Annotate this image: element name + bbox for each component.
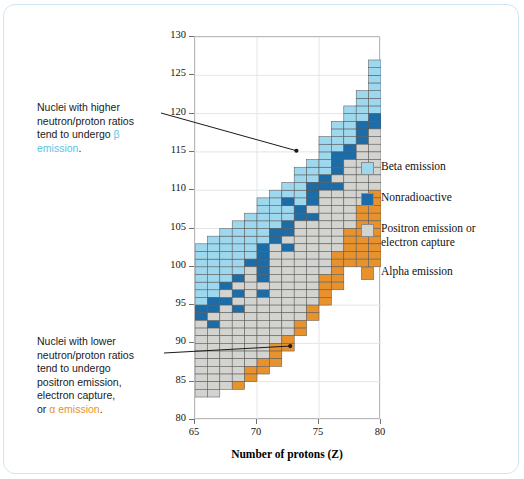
nuclide-cell [269,305,281,313]
chart-legend: Beta emissionNonradioactivePositron emis… [361,160,511,296]
nuclide-cell [220,229,232,237]
nuclide-cell [220,343,232,351]
nuclide-cell [369,83,381,91]
legend-swatch-stable [361,193,374,206]
nuclide-cell [257,343,269,351]
nuclide-cell [369,137,381,145]
nuclide-cell [294,290,306,298]
nuclide-cell [207,343,219,351]
annotation-positron-alpha: Nuclei with lower neutron/proton ratios … [37,335,163,417]
nuclide-cell [369,114,381,122]
nuclide-cell [319,274,331,282]
y-tick-mark [189,381,194,382]
legend-swatch-positron [361,224,374,237]
nuclide-cell [195,343,207,351]
nuclide-cell [245,374,257,382]
nuclide-cell [220,320,232,328]
nuclide-cell [294,297,306,305]
nuclide-cell [257,351,269,359]
nuclide-cell [245,359,257,367]
nuclide-cell [331,267,343,275]
nuclide-cell [232,374,244,382]
nuclide-cell [207,374,219,382]
nuclide-cell [319,290,331,298]
nuclide-cell [195,389,207,397]
chart-grid-and-cells [195,37,381,420]
nuclide-cell [344,160,356,168]
nuclide-cell [245,213,257,221]
nuclide-cell [356,106,368,114]
anno-top-line3: tend to undergo [37,128,113,140]
annotation-beta-emission: Nuclei with higher neutron/proton ratios… [37,101,159,155]
nuclide-cell [245,343,257,351]
nuclide-cell [356,91,368,99]
nuclide-cell [319,175,331,183]
nuclide-cell [307,198,319,206]
nuclide-cell [207,274,219,282]
nuclide-cell [282,320,294,328]
nuclide-cell [344,213,356,221]
x-tick-label: 65 [174,426,214,437]
nuclide-cell [220,382,232,390]
nuclide-cell [369,98,381,106]
nuclide-cell [307,282,319,290]
nuclide-cell [207,320,219,328]
nuclide-cell [232,313,244,321]
nuclide-cell [245,267,257,275]
nuclide-cell [220,351,232,359]
x-tick-mark [194,419,195,424]
nuclide-cell [232,229,244,237]
nuclide-cell [282,190,294,198]
nuclide-cell [356,137,368,145]
nuclide-cell [207,290,219,298]
legend-label-stable: Nonradioactive [381,191,452,205]
nuclide-cell [257,198,269,206]
nuclide-cell [369,68,381,76]
nuclide-cell [207,297,219,305]
nuclide-cell [207,251,219,259]
nuclide-cell [269,221,281,229]
nuclide-cell [307,213,319,221]
nuclide-cell [331,121,343,129]
nuclide-cell [245,274,257,282]
nuclide-cell [232,251,244,259]
nuclide-cell [307,190,319,198]
y-tick-mark [189,266,194,267]
nuclide-cell [307,274,319,282]
nuclide-cell [245,366,257,374]
nuclide-cell [269,251,281,259]
nuclide-cell [245,251,257,259]
y-tick-label: 100 [150,259,186,270]
legend-swatch-beta [361,162,374,175]
nuclide-cell [269,267,281,275]
nuclide-cell [269,236,281,244]
nuclide-cell [307,297,319,305]
nuclide-cell [282,336,294,344]
nuclide-cell [207,267,219,275]
nuclide-cell [307,251,319,259]
nuclide-cell [331,259,343,267]
nuclide-cell [319,236,331,244]
nuclide-cell [331,236,343,244]
nuclide-cell [369,144,381,152]
nuclide-cell [220,313,232,321]
x-tick-mark [256,419,257,424]
nuclide-cell [195,244,207,252]
nuclide-cell [220,336,232,344]
nuclide-cell [319,244,331,252]
nuclide-cell [307,244,319,252]
nuclide-cell [232,351,244,359]
nuclide-cell [257,213,269,221]
anno-bottom-line6: or [37,403,49,415]
nuclide-cell [232,244,244,252]
nuclide-cell [369,75,381,83]
nuclide-cell [307,160,319,168]
nuclide-cell [369,106,381,114]
x-axis-label: Number of protons (Z) [182,448,392,460]
nuclide-cell [331,190,343,198]
nuclide-cell [232,221,244,229]
nuclide-cell [232,305,244,313]
nuclide-cell [331,144,343,152]
nuclide-cell [344,106,356,114]
nuclide-cell [207,313,219,321]
